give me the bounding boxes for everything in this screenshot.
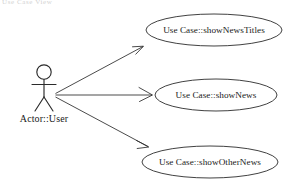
use-case-label: Use Case::showOtherNews	[159, 157, 261, 167]
arrowhead-icon	[137, 141, 149, 149]
actor-label: Actor::User	[20, 113, 69, 124]
arrowhead-icon	[139, 88, 153, 102]
actor-right-leg-icon	[44, 97, 53, 111]
actor-head-icon	[37, 65, 51, 79]
association-line	[56, 97, 149, 147]
use-case-showOtherNews[interactable]: Use Case::showOtherNews	[142, 146, 278, 178]
use-case-showNews[interactable]: Use Case::showNews	[155, 79, 277, 111]
use-case-label: Use Case::showNews	[176, 90, 257, 100]
association-user-to-showNewsTitles[interactable]	[56, 46, 144, 93]
diagram-svg: Actor::User Use Case::showNewsTitles Use…	[0, 0, 290, 185]
use-case-showNewsTitles[interactable]: Use Case::showNewsTitles	[146, 14, 282, 46]
arrowhead-icon	[133, 46, 144, 54]
actor-user[interactable]: Actor::User	[20, 65, 69, 124]
association-user-to-showOtherNews[interactable]	[56, 97, 149, 149]
association-line	[56, 47, 144, 94]
use-case-diagram-canvas: Use Case View Actor::User Use Case:	[0, 0, 290, 185]
use-case-label: Use Case::showNewsTitles	[163, 25, 265, 35]
actor-left-leg-icon	[35, 97, 44, 111]
association-user-to-showNews[interactable]	[56, 88, 153, 102]
